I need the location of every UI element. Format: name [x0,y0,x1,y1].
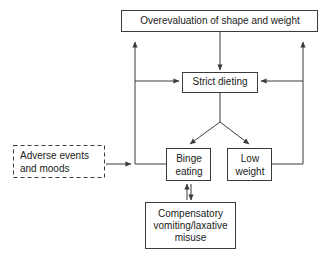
node-strict-dieting-label: Strict dieting [192,76,247,87]
node-adverse-events: Adverse events and moods [14,146,105,178]
node-binge-eating: Binge eating [167,149,211,181]
node-overevaluation-label: Overevaluation of shape and weight [140,15,300,26]
node-strict-dieting: Strict dieting [183,73,258,93]
node-compensatory-label-line3: misuse [175,232,207,243]
node-adverse-events-label-line1: Adverse events [20,150,89,161]
node-overevaluation: Overevaluation of shape and weight [122,11,318,32]
node-compensatory: Compensatory vomiting/laxative misuse [146,203,236,249]
edge-binge-eating-compensatory [187,184,191,200]
node-compensatory-label-line2: vomiting/laxative [154,220,228,231]
node-binge-eating-label-line1: Binge [176,153,202,164]
node-low-weight-label-line1: Low [241,153,260,164]
node-compensatory-label-line1: Compensatory [158,208,223,219]
eating-disorder-flowchart: Overevaluation of shape and weight Stric… [0,0,329,259]
edge-strict-dieting-to-binge-eating [190,93,220,144]
node-binge-eating-label-line2: eating [175,166,202,177]
edge-low-weight-to-overevaluation [272,42,303,164]
diagram-canvas: Overevaluation of shape and weight Stric… [0,0,329,259]
node-adverse-events-label-line2: and moods [20,163,69,174]
edge-strict-dieting-to-low-weight [220,122,249,144]
node-low-weight-label-line2: weight [235,166,265,177]
node-low-weight: Low weight [228,149,272,181]
edge-binge-eating-to-overevaluation [135,42,166,164]
